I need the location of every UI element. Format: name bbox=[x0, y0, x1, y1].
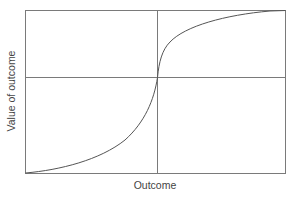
value-curve bbox=[26, 11, 286, 174]
value-function-chart bbox=[0, 0, 293, 201]
x-axis-label: Outcome bbox=[25, 179, 285, 191]
y-axis-label: Value of outcome bbox=[5, 51, 17, 132]
plot-frame bbox=[26, 11, 286, 174]
